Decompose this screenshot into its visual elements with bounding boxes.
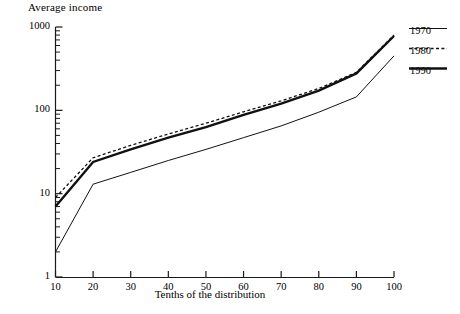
data-series bbox=[56, 35, 395, 252]
chart-figure: Average income 1000100101 10203040506070… bbox=[0, 0, 460, 314]
y-axis-tick-label: 1000 bbox=[8, 20, 50, 31]
series-line-1980 bbox=[56, 35, 395, 197]
y-axis-tick-label: 1 bbox=[8, 270, 50, 281]
plot-area bbox=[0, 0, 460, 314]
x-axis-ticks bbox=[56, 271, 395, 277]
series-line-1970 bbox=[56, 56, 395, 252]
legend-swatch-1970 bbox=[409, 18, 447, 25]
legend-swatch-1990 bbox=[409, 58, 447, 65]
y-axis-tick-label: 100 bbox=[8, 103, 50, 114]
x-axis-title: Tenths of the distribution bbox=[0, 288, 420, 300]
series-line-1990 bbox=[56, 36, 395, 207]
legend-item-1990[interactable]: 1990 bbox=[409, 58, 456, 77]
legend-item-1980[interactable]: 1980 bbox=[409, 38, 456, 57]
legend-item-1970[interactable]: 1970 bbox=[409, 18, 456, 37]
y-axis-ticks bbox=[56, 27, 63, 277]
axes bbox=[56, 27, 395, 278]
y-axis-tick-label: 10 bbox=[8, 187, 50, 198]
legend-swatch-1980 bbox=[409, 38, 447, 45]
chart-legend: 197019801990 bbox=[409, 18, 456, 78]
